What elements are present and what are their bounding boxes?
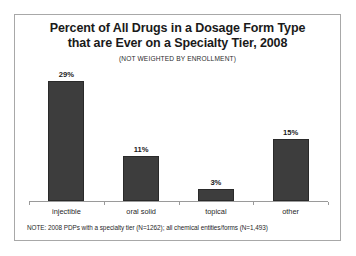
x-axis-tick — [104, 202, 105, 205]
bar-rect[interactable] — [273, 139, 309, 201]
bar-slot-topical: 3% — [179, 69, 254, 201]
bar-value-label: 15% — [283, 129, 298, 137]
x-axis-ticks — [29, 202, 328, 205]
x-tick-label-topical: topical — [179, 207, 254, 216]
bar-value-label: 3% — [210, 179, 221, 187]
bar-value-label: 29% — [59, 71, 74, 79]
chart-frame: Percent of All Drugs in a Dosage Form Ty… — [14, 14, 341, 241]
bar-rect[interactable] — [48, 81, 84, 201]
bar-value-label: 11% — [134, 146, 149, 154]
x-axis-category-labels: injectible oral solid topical other — [29, 207, 328, 216]
x-axis-tick — [179, 202, 180, 205]
x-axis-tick — [29, 202, 30, 205]
bar-slot-other: 15% — [253, 69, 328, 201]
x-tick-label-injectible: injectible — [29, 207, 104, 216]
bar-rect[interactable] — [123, 156, 159, 201]
page-title-line-1: Percent of All Drugs in a Dosage Form Ty… — [15, 21, 340, 36]
bar-series: 29% 11% 3% 15% — [29, 69, 328, 201]
x-tick-label-oral-solid: oral solid — [104, 207, 179, 216]
chart-subtitle: (NOT WEIGHTED BY ENROLLMENT) — [15, 55, 340, 62]
plot-area: 29% 11% 3% 15% — [29, 69, 328, 201]
x-axis-tick — [253, 202, 254, 205]
bar-rect[interactable] — [198, 189, 234, 201]
bar-slot-oral-solid: 11% — [104, 69, 179, 201]
x-axis-tick — [328, 202, 329, 205]
chart-page: Percent of All Drugs in a Dosage Form Ty… — [0, 0, 356, 256]
chart-title-block: Percent of All Drugs in a Dosage Form Ty… — [15, 21, 340, 62]
chart-footnote: NOTE: 2008 PDPs with a specialty tier (N… — [27, 224, 330, 231]
bar-slot-injectible: 29% — [29, 69, 104, 201]
x-tick-label-other: other — [253, 207, 328, 216]
page-title-line-2: that are Ever on a Specialty Tier, 2008 — [15, 36, 340, 51]
